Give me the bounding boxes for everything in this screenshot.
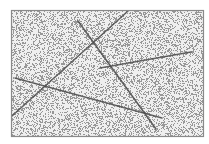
scene-canvas <box>0 0 209 144</box>
noisy-line-image <box>0 0 209 144</box>
